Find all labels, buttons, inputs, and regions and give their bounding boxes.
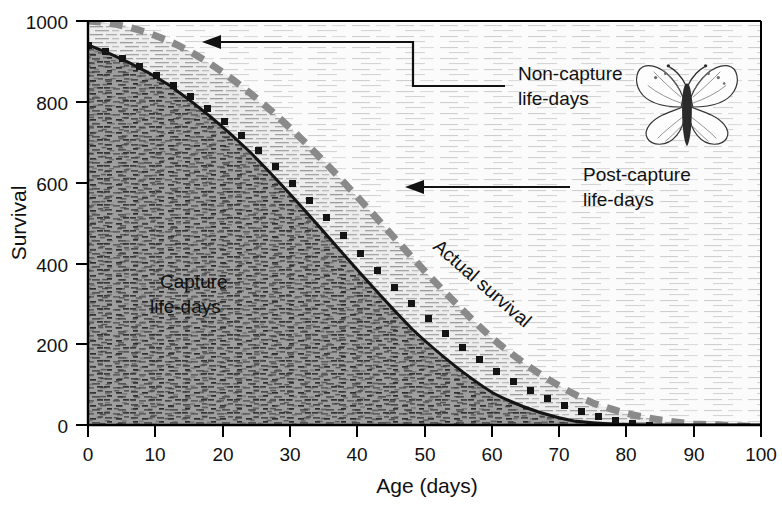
y-axis-ticks bbox=[76, 21, 88, 425]
x-axis-ticks bbox=[88, 425, 761, 437]
y-tick-label: 200 bbox=[36, 335, 68, 356]
x-axis-label: Age (days) bbox=[376, 474, 478, 497]
survival-chart-figure: 1000 800 600 400 200 0 0 10 20 30 40 50 … bbox=[0, 0, 782, 505]
chart-svg: 1000 800 600 400 200 0 0 10 20 30 40 50 … bbox=[0, 0, 782, 505]
x-tick-labels: 0 10 20 30 40 50 60 70 80 90 100 bbox=[83, 444, 777, 465]
x-tick-label: 70 bbox=[548, 444, 569, 465]
y-axis-label: Survival bbox=[7, 186, 30, 261]
x-tick-label: 100 bbox=[745, 444, 777, 465]
y-tick-label: 0 bbox=[57, 416, 68, 437]
y-tick-label: 1000 bbox=[26, 12, 68, 33]
x-tick-label: 60 bbox=[481, 444, 502, 465]
y-tick-label: 600 bbox=[36, 174, 68, 195]
x-tick-label: 0 bbox=[83, 444, 94, 465]
y-tick-label: 800 bbox=[36, 93, 68, 114]
post-capture-label-line1: Post-capture bbox=[583, 164, 691, 185]
x-tick-label: 40 bbox=[346, 444, 367, 465]
capture-label-line2: life-days bbox=[150, 296, 221, 317]
capture-label-line1: Capture bbox=[160, 271, 228, 292]
non-capture-label-line1: Non-capture bbox=[518, 63, 623, 84]
x-tick-label: 10 bbox=[144, 444, 165, 465]
x-tick-label: 20 bbox=[212, 444, 233, 465]
x-tick-label: 50 bbox=[414, 444, 435, 465]
x-tick-label: 30 bbox=[279, 444, 300, 465]
non-capture-label-line2: life-days bbox=[518, 88, 589, 109]
post-capture-label-line2: life-days bbox=[583, 189, 654, 210]
y-tick-label: 400 bbox=[36, 255, 68, 276]
x-tick-label: 90 bbox=[683, 444, 704, 465]
x-tick-label: 80 bbox=[615, 444, 636, 465]
y-tick-labels: 1000 800 600 400 200 0 bbox=[26, 12, 68, 437]
